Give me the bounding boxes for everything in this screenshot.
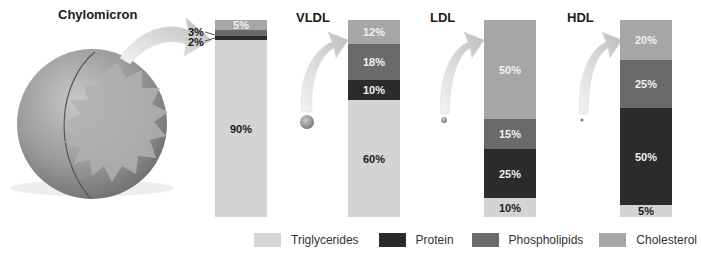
hdl-title: HDL <box>567 10 594 25</box>
vldl-cholesterol-segment: 12% <box>348 20 400 44</box>
ldl-cholesterol-segment: 50% <box>484 20 536 119</box>
chylomicron-protein-label: 2% <box>188 36 204 48</box>
ldl-protein-segment: 25% <box>484 149 536 198</box>
segment-label: 50% <box>499 64 521 76</box>
triglycerides-swatch-icon <box>254 233 281 247</box>
segment-label: 15% <box>499 128 521 140</box>
protein-swatch-icon <box>379 233 406 247</box>
ldl-arrow-icon <box>441 32 484 114</box>
legend: Triglycerides Protein Phospholipids Chol… <box>254 233 701 247</box>
chylomicron-triglycerides-segment: 90% <box>215 40 267 217</box>
segment-label: 50% <box>635 151 657 163</box>
segment-label: 25% <box>499 168 521 180</box>
legend-label: Protein <box>416 233 454 247</box>
legend-label: Triglycerides <box>291 233 359 247</box>
vldl-phospholipids-segment: 18% <box>348 44 400 80</box>
chylomicron-bar: 5% 90% <box>215 20 267 217</box>
hdl-arrow-icon <box>580 32 622 114</box>
hdl-bar: 20% 25% 50% 5% <box>620 20 672 217</box>
ldl-sphere-icon <box>441 117 447 123</box>
hdl-phospholipids-segment: 25% <box>620 60 672 108</box>
segment-label: 90% <box>230 123 252 135</box>
vldl-triglycerides-segment: 60% <box>348 100 400 217</box>
segment-label: 20% <box>635 34 657 46</box>
ldl-triglycerides-segment: 10% <box>484 198 536 217</box>
legend-label: Phospholipids <box>509 233 584 247</box>
segment-label: 60% <box>363 153 385 165</box>
cholesterol-swatch-icon <box>599 233 626 247</box>
legend-label: Cholesterol <box>636 233 697 247</box>
vldl-bar: 12% 18% 10% 60% <box>348 20 400 217</box>
legend-item-triglycerides: Triglycerides <box>254 233 359 247</box>
segment-label: 12% <box>363 26 385 38</box>
hdl-protein-segment: 50% <box>620 108 672 205</box>
vldl-sphere-icon <box>300 115 314 129</box>
phospholipids-swatch-icon <box>472 233 499 247</box>
hdl-triglycerides-segment: 5% <box>620 205 672 217</box>
ldl-phospholipids-segment: 15% <box>484 119 536 149</box>
chylomicron-sphere-icon <box>10 49 174 199</box>
vldl-arrow-icon <box>301 32 348 112</box>
hdl-cholesterol-segment: 20% <box>620 20 672 60</box>
legend-item-cholesterol: Cholesterol <box>599 233 697 247</box>
ldl-title: LDL <box>430 10 455 25</box>
ldl-bar: 50% 15% 25% 10% <box>484 20 536 217</box>
segment-label: 18% <box>363 56 385 68</box>
vldl-title: VLDL <box>296 10 330 25</box>
segment-label: 10% <box>363 84 385 96</box>
chylomicron-title: Chylomicron <box>58 7 137 22</box>
legend-item-phospholipids: Phospholipids <box>472 233 584 247</box>
segment-label: 10% <box>499 202 521 214</box>
segment-label: 25% <box>635 78 657 90</box>
segment-label: 5% <box>638 205 654 217</box>
chylomicron-cholesterol-segment: 5% <box>215 20 267 30</box>
hdl-sphere-icon <box>581 119 584 122</box>
legend-item-protein: Protein <box>379 233 454 247</box>
vldl-protein-segment: 10% <box>348 80 400 100</box>
